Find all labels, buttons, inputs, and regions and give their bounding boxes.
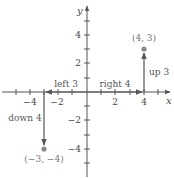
point-4-3: [141, 46, 146, 51]
x-tick-label: −2: [50, 97, 63, 107]
y-axis-label: y: [76, 5, 83, 16]
point-neg3-neg4: [41, 146, 46, 151]
y-tick-label: −2: [68, 115, 81, 125]
y-tick-label: 4: [75, 30, 81, 40]
down-4-label: down 4: [8, 113, 42, 123]
x-tick-label: 4: [141, 97, 147, 107]
point-label-neg3-neg4: (−3, −4): [24, 154, 63, 164]
coordinate-plane: −4 −2 2 4 4 2 −2 −4 x y right 4 up 3 lef…: [0, 0, 174, 179]
x-tick-label: 2: [112, 97, 118, 107]
left-3-label: left 3: [54, 79, 78, 89]
y-tick-label: 2: [75, 58, 81, 68]
right-4-label: right 4: [100, 79, 131, 89]
up-3-label: up 3: [149, 67, 169, 77]
x-tick-label: −4: [23, 97, 37, 107]
x-axis-label: x: [166, 95, 172, 106]
point-label-4-3: (4, 3): [132, 33, 156, 43]
y-tick-label: −4: [68, 144, 82, 154]
